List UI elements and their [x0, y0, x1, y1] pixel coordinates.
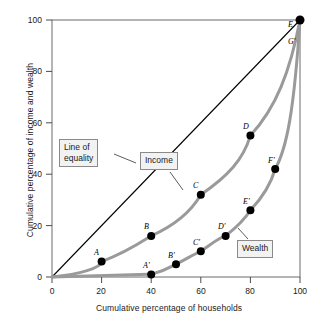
point-C-prime — [197, 247, 205, 255]
point-label-E-prime: E' — [243, 197, 250, 206]
point-label-B-prime: B' — [168, 251, 175, 260]
point-label-C: C — [193, 181, 198, 190]
x-tick-label-20: 20 — [90, 286, 112, 296]
point-label-G-prime: G' — [288, 37, 296, 46]
lorenz-curve-chart: 100 80 60 40 20 0 0 20 40 60 80 100 Cumu… — [0, 0, 326, 322]
point-label-B: B — [144, 222, 149, 231]
y-tick-label-0: 0 — [20, 272, 42, 282]
x-tick-label-0: 0 — [41, 286, 63, 296]
point-label-F-prime: F' — [268, 156, 275, 165]
point-E-prime — [246, 206, 254, 214]
point-label-A: A — [94, 248, 99, 257]
point-A-prime — [147, 270, 155, 278]
point-label-E: E — [288, 20, 293, 29]
point-D-prime — [222, 232, 230, 240]
y-axis-title: Cumulative percentage of income and weal… — [25, 60, 35, 240]
point-A — [98, 258, 106, 266]
point-label-D-prime: D' — [218, 222, 226, 231]
callout-income: Income — [140, 152, 178, 170]
callout-equality-line2: equality — [64, 153, 93, 164]
point-label-C-prime: C' — [193, 238, 200, 247]
x-tick-label-80: 80 — [239, 286, 261, 296]
point-C — [197, 191, 205, 199]
callout-line-of-equality: Line of equality — [59, 139, 98, 167]
x-tick-label-100: 100 — [289, 286, 311, 296]
x-tick-label-60: 60 — [190, 286, 212, 296]
y-tick-label-100: 100 — [20, 15, 42, 25]
point-label-D: D — [243, 122, 249, 131]
callout-equality-line1: Line of — [64, 142, 93, 153]
point-B-prime — [172, 260, 180, 268]
point-E — [296, 16, 305, 25]
point-F-prime — [271, 165, 279, 173]
x-tick-label-40: 40 — [140, 286, 162, 296]
point-D — [246, 132, 254, 140]
point-B — [147, 232, 155, 240]
callout-wealth: Wealth — [237, 240, 273, 258]
x-axis-ticks — [52, 277, 300, 283]
x-axis-title: Cumulative percentage of households — [96, 303, 242, 313]
y-axis-ticks — [46, 20, 52, 277]
point-label-A-prime: A' — [143, 261, 150, 270]
